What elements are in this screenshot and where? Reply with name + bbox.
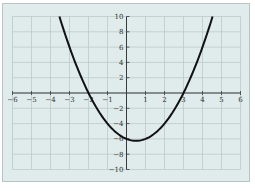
x-tick-label: −5 bbox=[26, 96, 36, 104]
x-tick-label: 2 bbox=[162, 96, 166, 104]
x-tick-label: 6 bbox=[238, 96, 243, 104]
x-tick-label: −3 bbox=[64, 96, 74, 104]
x-tick-label: 1 bbox=[143, 96, 147, 104]
x-tick-label: 4 bbox=[200, 96, 205, 104]
parabola-curve bbox=[59, 17, 212, 141]
x-tick-label: −1 bbox=[102, 96, 112, 104]
y-tick-label: −10 bbox=[109, 166, 124, 174]
x-tick-label: 5 bbox=[219, 96, 223, 104]
y-tick-label: 10 bbox=[115, 13, 124, 21]
x-tick-label: −4 bbox=[45, 96, 56, 104]
y-tick-label: 8 bbox=[119, 28, 123, 36]
y-tick-label: 2 bbox=[119, 74, 123, 82]
y-tick-label: −4 bbox=[113, 120, 124, 128]
axes bbox=[13, 17, 241, 170]
y-tick-label: 4 bbox=[119, 59, 124, 67]
x-tick-label: −6 bbox=[7, 96, 18, 104]
y-tick-label: −2 bbox=[113, 105, 123, 113]
y-tick-label: 6 bbox=[119, 44, 124, 52]
y-tick-label: −8 bbox=[113, 151, 123, 159]
parabola-chart: −6−5−4−3−2−1123456 −10−8−6−4−2246810 bbox=[0, 0, 255, 191]
x-tick-labels: −6−5−4−3−2−1123456 bbox=[7, 96, 243, 104]
